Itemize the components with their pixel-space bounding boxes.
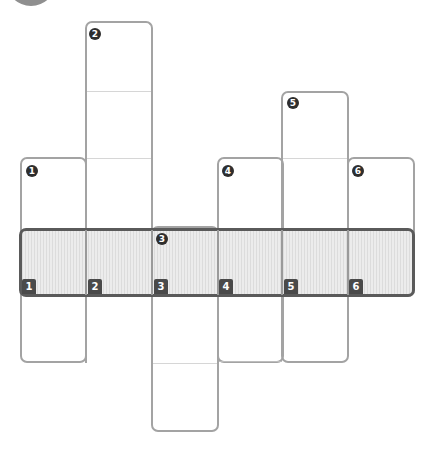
band-label-3: 3 [154, 279, 168, 294]
band-divider-2 [151, 230, 153, 295]
column-4-divider [219, 361, 282, 362]
column-marker-1: 1 [26, 165, 38, 177]
band-label-2: 2 [88, 279, 102, 294]
column-marker-3: 3 [156, 233, 168, 245]
band-label-5: 5 [284, 279, 298, 294]
column-marker-2: 2 [89, 28, 101, 40]
column-marker-6: 6 [352, 165, 364, 177]
column-2 [85, 21, 153, 230]
column-3-divider [153, 363, 217, 364]
band-divider-4 [281, 230, 283, 295]
column-marker-4: 4 [222, 165, 234, 177]
band-divider-1 [85, 230, 87, 295]
band-label-1: 1 [22, 279, 36, 294]
band-label-6: 6 [349, 279, 363, 294]
column-2-divider-lower [87, 158, 151, 159]
band-label-4: 4 [219, 279, 233, 294]
column-5 [281, 91, 349, 363]
partial-circle-decoration [6, 0, 56, 6]
column-5-divider [283, 158, 347, 159]
column-2-divider-upper [87, 91, 151, 92]
column-marker-5: 5 [287, 97, 299, 109]
